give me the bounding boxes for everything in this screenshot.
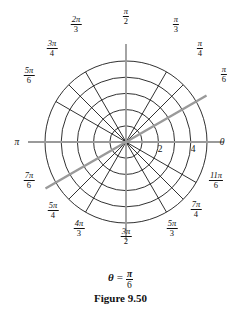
fraction: π4 (197, 39, 203, 57)
angle-label-zero: 0 (220, 137, 225, 147)
angle-label-seven-pi-over-4: 7π4 (191, 200, 202, 218)
fraction: 2π3 (71, 15, 82, 33)
fraction-denominator: 2 (123, 17, 129, 26)
fraction: 3π4 (47, 39, 58, 57)
fraction-denominator: 4 (48, 211, 59, 220)
fraction-denominator: 6 (221, 75, 227, 84)
fraction-denominator: 6 (24, 76, 35, 85)
grid-ray-120 (86, 72, 127, 142)
angle-label-four-pi-over-3: 4π3 (74, 219, 85, 237)
grid-ray-150 (56, 102, 126, 143)
fraction-denominator: 6 (209, 181, 223, 190)
equals-symbol: = (117, 271, 123, 283)
fraction: 7π6 (24, 171, 35, 189)
angle-label-pi-over-2: π2 (123, 7, 129, 25)
polar-figure: 0π6π3π22π33π4π45π6π7π65π44π33π25π37π411π… (0, 0, 241, 323)
angle-label-five-pi-over-4: 5π4 (48, 201, 59, 219)
angle-label-three-pi-over-4: 3π4 (47, 39, 58, 57)
grid-ray-135 (69, 85, 126, 142)
equation-denominator: 6 (126, 280, 133, 290)
fraction-denominator: 4 (197, 49, 203, 58)
angle-label-eleven-pi-over-6: 11π6 (209, 171, 223, 189)
angle-label-three-pi-over-2: 3π2 (121, 227, 132, 245)
caption-block: θ=π6 Figure 9.50 (0, 268, 241, 304)
fraction: π2 (123, 7, 129, 25)
fraction-denominator: 3 (74, 229, 85, 238)
equation-fraction: π6 (126, 269, 133, 290)
equation-numerator: π (126, 269, 133, 280)
fraction-denominator: 3 (173, 25, 179, 34)
fraction: 11π6 (209, 171, 223, 189)
radius-label-4: 4 (191, 144, 196, 154)
angle-label-two-pi-over-3: 2π3 (71, 15, 82, 33)
fraction: 5π4 (48, 201, 59, 219)
theta-equation: θ=π6 (0, 268, 241, 290)
fraction: 3π2 (121, 227, 132, 245)
angle-label-five-pi-over-3: 5π3 (167, 219, 178, 237)
fraction: π3 (173, 15, 179, 33)
grid-ray-315 (126, 142, 183, 199)
fraction: 7π4 (191, 200, 202, 218)
fraction-denominator: 3 (167, 229, 178, 238)
fraction-denominator: 6 (24, 181, 35, 190)
theta-symbol: θ (108, 271, 114, 283)
fraction-denominator: 3 (71, 25, 82, 34)
angle-label-pi-over-6: π6 (221, 65, 227, 83)
angle-label-five-pi-over-6: 5π6 (24, 66, 35, 84)
radius-label-2: 2 (158, 144, 163, 154)
fraction-denominator: 2 (121, 237, 132, 246)
fraction: π6 (221, 65, 227, 83)
angle-label-pi-over-4: π4 (197, 39, 203, 57)
fraction: 5π6 (24, 66, 35, 84)
angle-label-seven-pi-over-6: 7π6 (24, 171, 35, 189)
figure-caption: Figure 9.50 (0, 292, 241, 304)
angle-label-pi-over-3: π3 (173, 15, 179, 33)
fraction: 4π3 (74, 219, 85, 237)
fraction: 5π3 (167, 219, 178, 237)
fraction-denominator: 4 (191, 210, 202, 219)
fraction-denominator: 4 (47, 49, 58, 58)
angle-label-pi: π (15, 137, 20, 147)
